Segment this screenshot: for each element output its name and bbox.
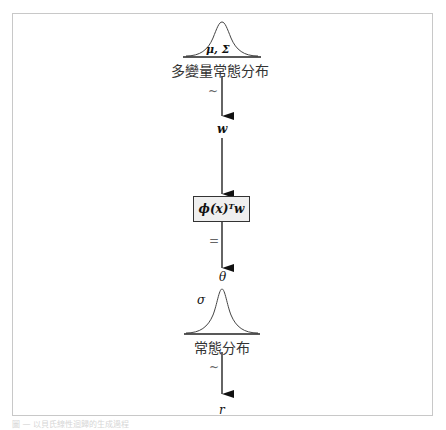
theta-node: θ (219, 270, 226, 284)
mu-sigma-label: μ, Σ (206, 43, 230, 56)
figure-caption: 圖 — 以貝氏線性迴歸的生成過程 (12, 418, 129, 429)
multivariate-normal-label: 多變量常態分布 (171, 60, 269, 80)
normal-distribution-label: 常態分布 (194, 337, 250, 357)
r-node: r (219, 403, 225, 417)
sigma-label: σ (197, 293, 205, 307)
sampled-from-label: ~ (208, 84, 218, 98)
linear-function-box: ϕ(x)ᵀw (193, 196, 250, 222)
sampled-from-label-2: ~ (209, 360, 219, 374)
equals-label: = (209, 234, 219, 248)
w-node: w (217, 122, 227, 136)
